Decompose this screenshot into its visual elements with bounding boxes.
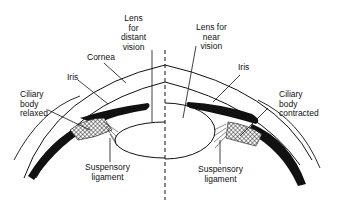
ciliary-hatch-right [226, 122, 262, 146]
ciliary-hatch-left [70, 118, 112, 140]
label-lens-distant-vision: Lens for distant vision [121, 14, 146, 52]
eye-accommodation-diagram: Lens for distant vision Lens for near vi… [0, 0, 337, 210]
label-iris-left: Iris [67, 73, 78, 83]
label-lens-near-vision: Lens for near vision [196, 23, 227, 52]
label-ciliary-body-contracted: Ciliary body contracted [279, 90, 319, 119]
label-ciliary-body-relaxed: Ciliary body relaxed [20, 90, 48, 119]
label-suspensory-ligament-left: Suspensory ligament [85, 163, 130, 182]
label-suspensory-ligament-right: Suspensory ligament [198, 165, 243, 184]
label-cornea: Cornea [87, 53, 115, 63]
label-iris-right: Iris [238, 63, 249, 73]
leader-cornea [104, 63, 126, 83]
leader-iris-right [213, 75, 240, 102]
